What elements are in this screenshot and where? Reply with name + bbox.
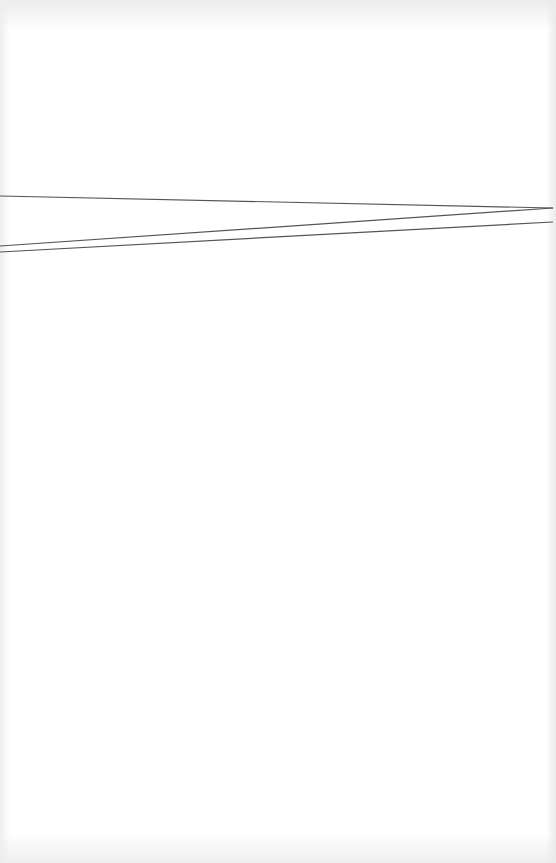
scanned-page [0, 0, 556, 863]
ruled-line-a [0, 196, 553, 208]
drawn-lines [0, 0, 556, 863]
